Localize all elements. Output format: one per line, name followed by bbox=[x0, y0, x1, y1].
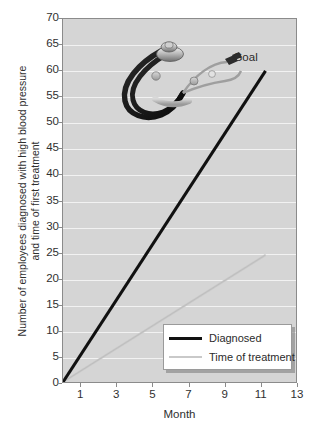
chart-legend: Diagnosed Time of treatment bbox=[163, 324, 292, 370]
y-axis-tick-mark bbox=[57, 201, 62, 202]
y-axis-tick-label: 15 bbox=[19, 299, 59, 311]
y-axis-tick-label: 60 bbox=[19, 64, 59, 76]
legend-swatch-time-of-treatment bbox=[169, 356, 202, 358]
y-axis-tick-label: 55 bbox=[19, 90, 59, 102]
legend-label-time-of-treatment: Time of treatment bbox=[209, 351, 295, 363]
y-axis-tick-mark bbox=[57, 96, 62, 97]
y-axis-tick-label: 30 bbox=[19, 221, 59, 233]
y-axis-tick-mark bbox=[57, 383, 62, 384]
y-axis-tick-mark bbox=[57, 227, 62, 228]
x-axis-tick-mark bbox=[189, 383, 190, 387]
y-axis-tick-mark bbox=[57, 18, 62, 19]
x-axis-tick-mark bbox=[80, 383, 81, 387]
legend-item-diagnosed: Diagnosed bbox=[169, 329, 262, 347]
y-axis-tick-mark bbox=[57, 331, 62, 332]
y-axis-tick-label: 25 bbox=[19, 247, 59, 259]
y-axis-tick-label: 40 bbox=[19, 168, 59, 180]
x-axis-tick-mark bbox=[297, 383, 298, 387]
y-axis-tick-mark bbox=[57, 148, 62, 149]
y-axis-tick-mark bbox=[57, 44, 62, 45]
x-axis-tick-mark bbox=[152, 383, 153, 387]
annotation-goal: Goal bbox=[233, 51, 257, 63]
y-axis-tick-label: 20 bbox=[19, 273, 59, 285]
y-axis-tick-mark bbox=[57, 253, 62, 254]
x-axis-tick-label: 5 bbox=[137, 388, 167, 400]
y-axis-tick-mark bbox=[57, 122, 62, 123]
y-axis-tick-mark bbox=[57, 305, 62, 306]
legend-swatch-diagnosed bbox=[169, 337, 202, 340]
y-axis-tick-mark bbox=[57, 279, 62, 280]
y-axis-tick-mark bbox=[57, 174, 62, 175]
y-axis-tick-label: 45 bbox=[19, 142, 59, 154]
x-axis-tick-label: 7 bbox=[174, 388, 204, 400]
x-axis-tick-mark bbox=[116, 383, 117, 387]
line-chart: Number of employees diagnosed with high … bbox=[0, 0, 320, 437]
y-axis-tick-label: 35 bbox=[19, 195, 59, 207]
y-axis-tick-mark bbox=[57, 357, 62, 358]
x-axis-tick-label: 9 bbox=[210, 388, 240, 400]
y-axis-tick-label: 65 bbox=[19, 38, 59, 50]
x-axis-tick-mark bbox=[225, 383, 226, 387]
y-axis-tick-label: 0 bbox=[19, 377, 59, 389]
x-axis-tick-label: 3 bbox=[101, 388, 131, 400]
x-axis-tick-label: 13 bbox=[282, 388, 312, 400]
y-axis-tick-label: 5 bbox=[19, 351, 59, 363]
x-axis-tick-label: 1 bbox=[65, 388, 95, 400]
plot-area: Diagnosed Time of treatment Goal bbox=[62, 18, 297, 383]
y-axis-tick-label: 10 bbox=[19, 325, 59, 337]
x-axis-tick-mark bbox=[261, 383, 262, 387]
y-axis-tick-label: 50 bbox=[19, 116, 59, 128]
y-axis-tick-mark bbox=[57, 70, 62, 71]
x-axis-label: Month bbox=[62, 408, 297, 420]
legend-item-time-of-treatment: Time of treatment bbox=[169, 348, 295, 366]
x-axis-tick-label: 11 bbox=[246, 388, 276, 400]
legend-label-diagnosed: Diagnosed bbox=[209, 332, 262, 344]
y-axis-tick-label: 70 bbox=[19, 12, 59, 24]
